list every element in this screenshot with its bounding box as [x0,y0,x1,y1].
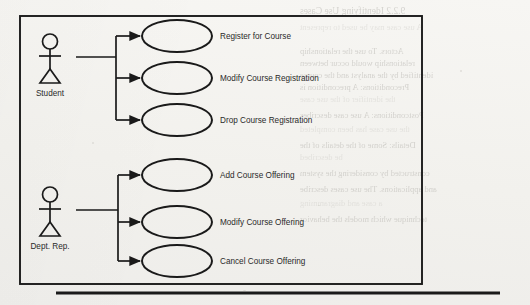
student-trunk [76,36,116,120]
actor-legs [40,222,60,236]
actor-student [39,34,61,83]
use-case-diagram: StudentDept. Rep.Register for CourseModi… [0,0,530,305]
use-case-ellipse-register-for-course [142,20,212,52]
actor-legs [40,69,60,83]
use-case-label-add-course-offering: Add Course Offering [220,171,295,180]
dept-rep-trunk [76,175,118,261]
use-case-ellipse-modify-course-registration [142,62,212,94]
use-case-ellipse-cancel-course-offering [142,245,212,277]
actor-label-student: Student [36,89,65,98]
use-case-label-modify-course-offering: Modify Course Offering [220,218,304,227]
use-case-ellipse-add-course-offering [142,159,212,191]
use-case-label-cancel-course-offering: Cancel Course Offering [220,257,306,266]
use-case-ellipse-modify-course-offering [142,206,212,238]
use-case-label-register-for-course: Register for Course [220,32,291,41]
actor-label-dept-rep: Dept. Rep. [30,242,69,251]
use-case-label-drop-course-registration: Drop Course Registration [220,116,313,125]
actor-head [43,187,58,202]
actor-head [43,34,58,49]
actor-dept-rep [39,187,61,236]
use-case-ellipse-drop-course-registration [142,104,212,136]
use-case-label-modify-course-registration: Modify Course Registration [220,74,319,83]
scanned-page: 9.2.2 Identifying Use CasesA use case ma… [0,0,530,305]
